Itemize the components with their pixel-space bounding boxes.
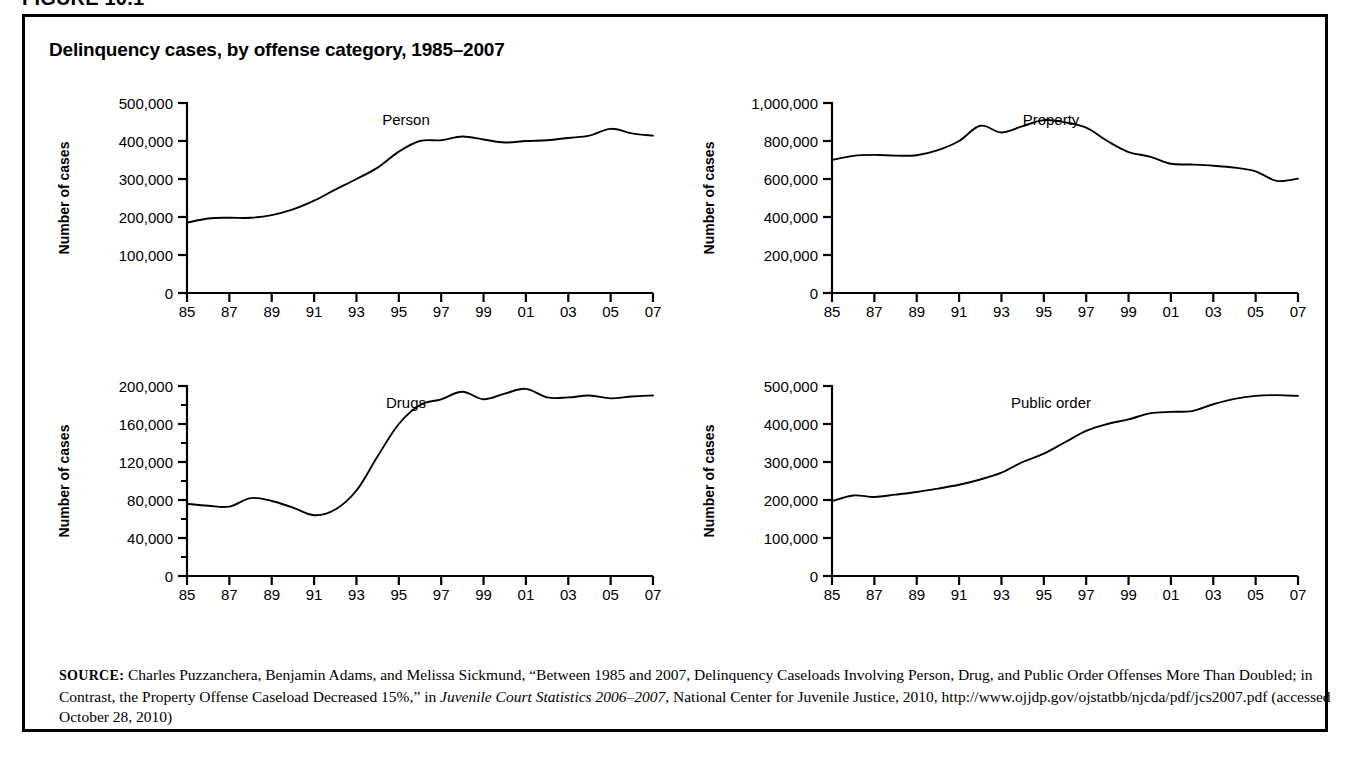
x-tick-label: 97 [1078,586,1095,603]
x-tick-label: 91 [306,586,323,603]
x-tick-label: 87 [866,586,883,603]
x-tick-label: 99 [1120,303,1137,320]
x-tick-label: 95 [1035,586,1052,603]
x-tick-label: 07 [645,586,662,603]
x-tick-label: 07 [645,303,662,320]
y-tick-label: 400,000 [119,133,173,150]
y-axis-title: Number of cases [56,141,72,254]
x-tick-label: 97 [433,586,450,603]
chart-panel-person: Number of cases0100,000200,000300,000400… [35,89,675,372]
series-label-property: Property [1023,111,1080,128]
y-tick-label: 120,000 [119,454,173,471]
y-tick-label: 200,000 [764,492,818,509]
source-kicker: SOURCE: [59,668,124,683]
source-note: SOURCE: Charles Puzzanchera, Benjamin Ad… [59,665,1339,728]
y-tick-label: 0 [810,285,818,302]
x-tick-label: 99 [1120,586,1137,603]
x-tick-label: 89 [908,303,925,320]
y-tick-label: 300,000 [119,171,173,188]
data-line-property [832,120,1298,181]
x-tick-label: 99 [475,586,492,603]
x-tick-label: 89 [263,586,280,603]
chart-panel-public-order: Number of cases0100,000200,000300,000400… [680,372,1320,655]
x-tick-label: 07 [1290,303,1307,320]
figure-number: FIGURE 10.1 [22,0,144,10]
y-tick-label: 0 [165,568,173,585]
y-tick-label: 0 [165,285,173,302]
x-tick-label: 95 [1035,303,1052,320]
x-tick-label: 85 [179,303,196,320]
series-label-person: Person [382,111,430,128]
series-label-drugs: Drugs [386,394,426,411]
x-tick-label: 07 [1290,586,1307,603]
y-tick-label: 0 [810,568,818,585]
x-tick-label: 93 [348,303,365,320]
y-tick-label: 100,000 [764,530,818,547]
x-tick-label: 05 [1247,303,1264,320]
x-tick-label: 93 [348,586,365,603]
x-tick-label: 85 [824,586,841,603]
x-tick-label: 03 [560,303,577,320]
x-tick-label: 99 [475,303,492,320]
y-tick-label: 1,000,000 [751,95,818,112]
x-tick-label: 97 [1078,303,1095,320]
y-tick-label: 500,000 [119,95,173,112]
x-tick-label: 01 [518,586,535,603]
y-tick-label: 400,000 [764,209,818,226]
y-tick-label: 600,000 [764,171,818,188]
y-tick-label: 400,000 [764,416,818,433]
x-tick-label: 95 [390,586,407,603]
data-line-person [187,129,653,223]
x-tick-label: 91 [951,303,968,320]
y-tick-label: 200,000 [764,247,818,264]
x-tick-label: 95 [390,303,407,320]
x-tick-label: 01 [518,303,535,320]
chart-panel-property: Number of cases0200,000400,000600,000800… [680,89,1320,372]
x-tick-label: 93 [993,303,1010,320]
y-tick-label: 40,000 [127,530,173,547]
data-line-public-order [832,395,1298,501]
x-tick-label: 05 [1247,586,1264,603]
x-tick-label: 97 [433,303,450,320]
chart-panel-drugs: Number of cases040,00080,000120,000160,0… [35,372,675,655]
y-tick-label: 80,000 [127,492,173,509]
y-tick-label: 800,000 [764,133,818,150]
x-tick-label: 87 [221,303,238,320]
x-tick-label: 05 [602,586,619,603]
x-tick-label: 05 [602,303,619,320]
x-tick-label: 03 [1205,303,1222,320]
x-tick-label: 91 [306,303,323,320]
x-tick-label: 03 [560,586,577,603]
y-axis-title: Number of cases [701,141,717,254]
x-tick-label: 93 [993,586,1010,603]
y-axis-title: Number of cases [701,424,717,537]
y-tick-label: 200,000 [119,209,173,226]
x-tick-label: 87 [866,303,883,320]
y-tick-label: 500,000 [764,378,818,395]
x-tick-label: 85 [824,303,841,320]
x-tick-label: 01 [1163,303,1180,320]
x-tick-label: 89 [908,586,925,603]
x-tick-label: 89 [263,303,280,320]
y-tick-label: 300,000 [764,454,818,471]
y-tick-label: 100,000 [119,247,173,264]
y-tick-label: 200,000 [119,378,173,395]
x-tick-label: 91 [951,586,968,603]
x-tick-label: 01 [1163,586,1180,603]
y-tick-label: 160,000 [119,416,173,433]
series-label-public-order: Public order [1011,394,1091,411]
figure-title: Delinquency cases, by offense category, … [49,39,505,61]
source-publication-title: Juvenile Court Statistics 2006–2007 [440,688,665,705]
y-axis-title: Number of cases [56,424,72,537]
x-tick-label: 87 [221,586,238,603]
chart-panel-grid: Number of cases0100,000200,000300,000400… [25,89,1325,655]
figure-box: Delinquency cases, by offense category, … [22,14,1328,732]
x-tick-label: 85 [179,586,196,603]
x-tick-label: 03 [1205,586,1222,603]
